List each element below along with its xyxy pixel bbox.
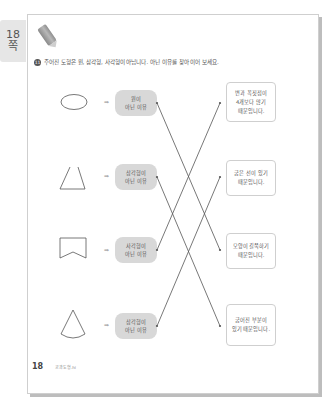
- footer-page-number: 18: [32, 362, 43, 371]
- matching-lines: [0, 0, 330, 407]
- footer-book-title: 교과도형.hi: [55, 364, 76, 370]
